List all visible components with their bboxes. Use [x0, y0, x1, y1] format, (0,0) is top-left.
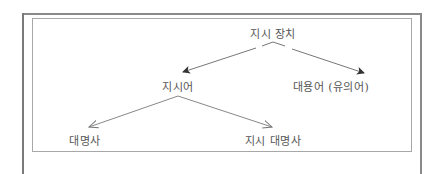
edge-left-to-leftright — [178, 96, 272, 127]
tree-edges — [0, 0, 444, 174]
edge-left-to-leftleft — [89, 96, 178, 127]
edge-root-to-right — [273, 42, 364, 73]
node-substitute: 대용어 (유의어) — [293, 78, 370, 94]
node-pronoun: 대명사 — [69, 132, 101, 148]
edge-root-to-left — [183, 42, 273, 72]
node-demonstrative-pronoun: 지시 대명사 — [245, 132, 302, 148]
node-root: 지시 장치 — [250, 25, 296, 41]
node-demonstrative: 지시어 — [162, 78, 194, 94]
